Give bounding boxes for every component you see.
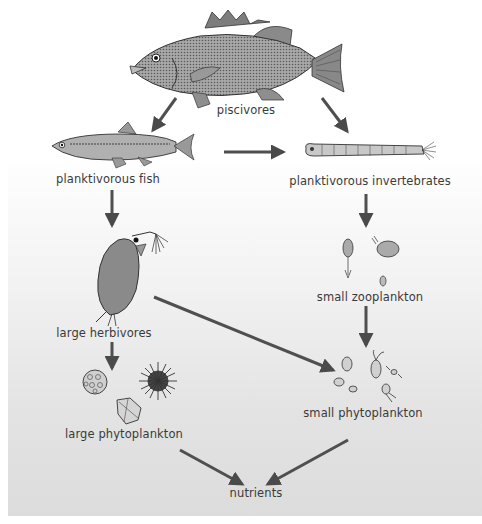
daphnia-icon	[96, 232, 168, 326]
label-small-phytoplankton: small phytoplankton	[303, 406, 422, 420]
large-phytoplankton-icon	[83, 362, 177, 424]
zooplankton-icon	[343, 236, 399, 286]
label-planktivorous-fish: planktivorous fish	[56, 172, 160, 186]
arrow-large-herbivores-to-small-phytoplankton	[154, 297, 333, 370]
label-large-herbivores: large herbivores	[56, 326, 151, 340]
minnow-icon	[52, 122, 194, 168]
midge-larva-icon	[306, 142, 436, 160]
label-piscivores: piscivores	[217, 103, 275, 117]
arrow-large-phytoplankton-to-nutrients	[180, 450, 242, 484]
label-small-zooplankton: small zooplankton	[317, 290, 423, 304]
arrow-small-phytoplankton-to-nutrients	[268, 440, 348, 484]
label-planktivorous-invertebrates: planktivorous invertebrates	[289, 174, 451, 188]
food-web-diagram	[0, 0, 482, 524]
spiky-alga	[139, 362, 177, 400]
arrow-piscivores-to-invertebrates	[322, 98, 347, 131]
small-phytoplankton-icon	[334, 350, 402, 402]
bass-icon	[130, 10, 344, 108]
label-large-phytoplankton: large phytoplankton	[65, 427, 183, 441]
label-nutrients: nutrients	[230, 486, 283, 500]
arrow-piscivores-to-planktivorous-fish	[153, 98, 176, 130]
